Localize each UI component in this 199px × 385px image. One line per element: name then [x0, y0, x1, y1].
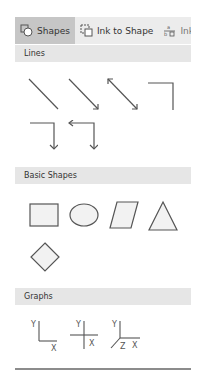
ink-to-shape-icon	[80, 24, 93, 37]
double-arrow-shape[interactable]	[105, 76, 141, 112]
svg-text:a: a	[167, 24, 170, 30]
bottom-divider	[15, 368, 191, 370]
line-shape[interactable]	[26, 76, 62, 112]
svg-text:Y: Y	[111, 320, 117, 329]
svg-text:b: b	[164, 31, 167, 37]
section-header-lines: Lines	[15, 45, 191, 62]
xy-cross-graph-shape[interactable]: Y X	[68, 318, 100, 352]
elbow-connector-shape[interactable]	[146, 80, 176, 112]
svg-text:X: X	[89, 339, 95, 348]
elbow-arrow-shape[interactable]	[28, 120, 58, 152]
svg-text:X: X	[132, 341, 138, 350]
tab-ink-to-shape-label: Ink to Shape	[97, 26, 154, 36]
triangle-shape[interactable]	[147, 200, 179, 232]
rectangle-shape[interactable]	[28, 202, 60, 228]
xy-graph-shape[interactable]: Y X	[30, 318, 60, 352]
xyz-graph-shape[interactable]: Y Z X	[108, 318, 142, 352]
diamond-shape[interactable]	[29, 241, 61, 273]
elbow-double-arrow-shape[interactable]	[66, 120, 98, 152]
section-header-basic-shapes: Basic Shapes	[15, 167, 191, 184]
ink-math-icon: a b	[163, 24, 176, 37]
arrow-shape[interactable]	[66, 76, 102, 112]
tab-ink-label: Ink	[180, 26, 191, 36]
svg-text:Y: Y	[30, 320, 36, 329]
parallelogram-shape[interactable]	[108, 200, 140, 230]
tab-ink-math[interactable]: a b Ink	[158, 17, 191, 44]
tab-bar: Shapes Ink to Shape a b Ink	[15, 17, 191, 44]
svg-text:Y: Y	[75, 320, 81, 329]
ellipse-shape[interactable]	[68, 202, 100, 228]
tab-shapes[interactable]: Shapes	[15, 17, 75, 44]
tab-ink-to-shape[interactable]: Ink to Shape	[75, 17, 159, 44]
section-header-graphs: Graphs	[15, 288, 191, 305]
shapes-icon	[20, 24, 33, 37]
svg-text:X: X	[51, 344, 57, 352]
tab-shapes-label: Shapes	[37, 26, 70, 36]
svg-text:Z: Z	[120, 342, 126, 351]
